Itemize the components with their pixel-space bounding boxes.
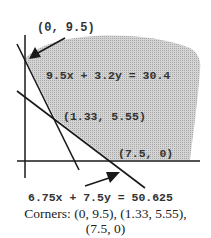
label-constraint-1: 9.5x + 3.2y = 30.4: [46, 69, 170, 82]
label-middle-corner: (1.33, 5.55): [63, 110, 146, 123]
label-constraint-2: 6.75x + 7.5y = 50.625: [28, 191, 173, 204]
label-top-corner: (0, 9.5): [37, 21, 95, 35]
arrowhead-icon: [106, 172, 120, 183]
label-bottom-corner: (7.5, 0): [118, 147, 173, 160]
feasible-region: [25, 36, 200, 161]
arrow-constraint-2: [85, 177, 112, 186]
corners-caption-line-1: Corners: (0, 9.5), (1.33, 5.55),: [0, 206, 211, 221]
corners-caption-line-2: (7.5, 0): [0, 221, 211, 236]
lp-diagram: (0, 9.5) 9.5x + 3.2y = 30.4 (1.33, 5.55)…: [0, 0, 211, 238]
